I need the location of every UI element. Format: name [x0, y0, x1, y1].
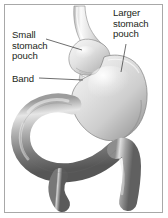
figure-root: Small stomach pouch Band Larger stomach … [0, 0, 168, 218]
leader-line-band [39, 78, 83, 80]
anatomy-group [20, 6, 147, 204]
gastric-band-illustration [0, 0, 168, 218]
